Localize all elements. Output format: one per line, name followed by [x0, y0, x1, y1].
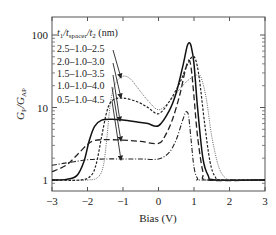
chart-figure: −3−2−10123110100 t1/tspacer/t2 (nm) 2.5–… — [0, 0, 276, 235]
x-axis-label: Bias (V) — [139, 212, 177, 225]
legend-entry: 2.0–1.0–3.0 — [57, 56, 105, 67]
legend-arrows — [112, 50, 121, 160]
x-tick-label: 2 — [227, 195, 233, 207]
x-tick-label: 3 — [262, 195, 268, 207]
x-tick-label: 0 — [156, 195, 162, 207]
legend-entry: 1.5–1.0–3.5 — [57, 68, 105, 79]
y-axis-label: GP/GAP — [14, 88, 28, 120]
x-tick-label: −1 — [117, 195, 129, 207]
legend: t1/tspacer/t2 (nm) 2.5–1.0–2.5 2.0–1.0–3… — [57, 27, 118, 105]
y-tick-label: 100 — [32, 29, 49, 41]
series-line — [52, 112, 265, 181]
legend-arrow — [113, 50, 121, 78]
legend-entry: 0.5–1.0–4.5 — [57, 94, 105, 105]
x-tick-label: −2 — [82, 195, 94, 207]
y-tick-label: 1 — [43, 174, 49, 186]
x-tick-label: 1 — [191, 195, 197, 207]
legend-entry: 2.5–1.0–2.5 — [57, 43, 105, 54]
x-tick-label: −3 — [46, 195, 58, 207]
legend-title: t1/tspacer/t2 (nm) — [57, 27, 118, 40]
legend-entry: 1.0–1.0–4.0 — [57, 80, 105, 91]
y-tick-label: 10 — [37, 102, 49, 114]
